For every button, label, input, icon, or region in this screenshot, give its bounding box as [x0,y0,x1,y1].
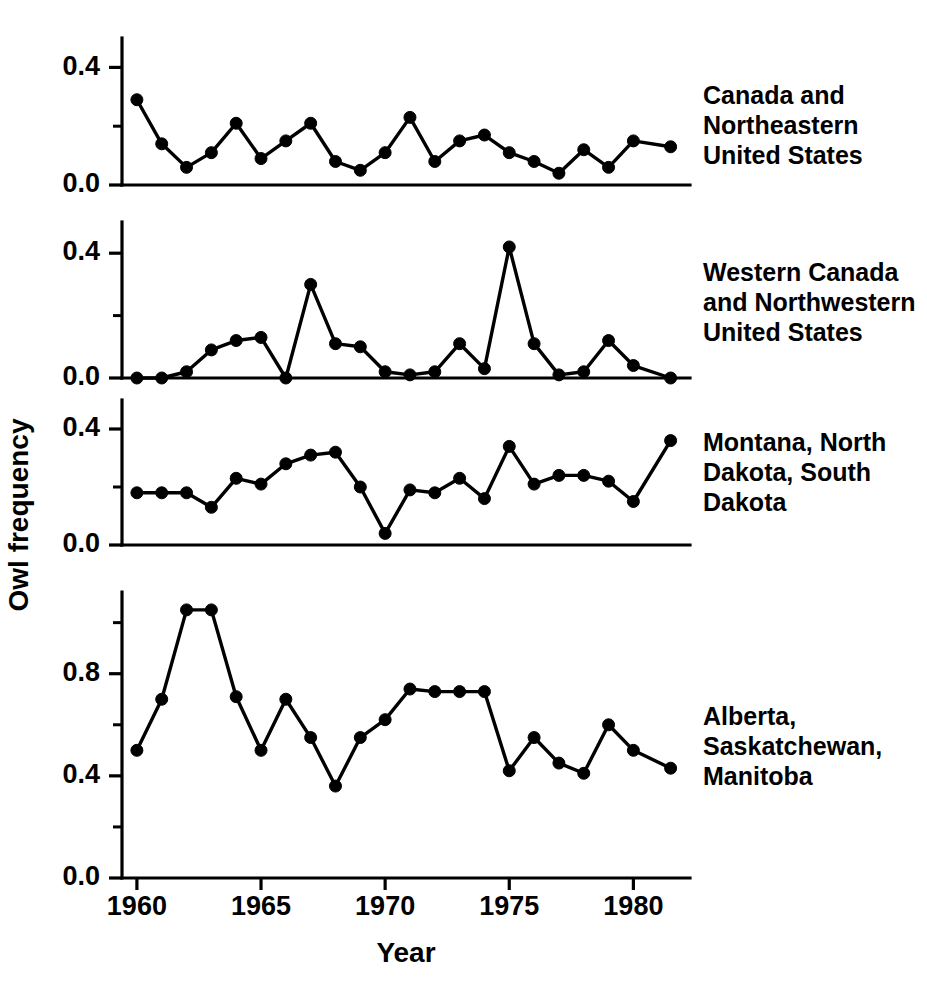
data-point-marker [354,732,366,744]
x-tick-label: 1980 [603,891,663,921]
data-point-marker [404,484,416,496]
data-point-marker [528,732,540,744]
panel-label-line: United States [703,141,863,169]
data-point-marker [478,129,490,141]
data-point-marker [181,366,193,378]
data-point-marker [230,335,242,347]
data-point-marker [354,164,366,176]
data-point-marker [578,366,590,378]
data-point-marker [429,366,441,378]
data-point-marker [205,147,217,159]
data-point-marker [230,472,242,484]
data-point-marker [156,487,168,499]
data-point-marker [305,278,317,290]
data-point-marker [478,493,490,505]
y-tick-label: 0.8 [62,657,100,687]
panel-label-line: Western Canada [703,258,900,286]
data-point-marker [627,135,639,147]
data-point-marker [503,241,515,253]
panel-label-line: Canada and [703,81,845,109]
data-point-marker [603,161,615,173]
data-point-marker [305,732,317,744]
x-axis-title: Year [376,937,435,968]
data-point-marker [280,458,292,470]
data-point-marker [329,446,341,458]
data-point-marker [454,472,466,484]
panel-label-line: Alberta, [703,702,796,730]
data-point-marker [603,335,615,347]
data-point-marker [503,147,515,159]
data-point-marker [665,141,677,153]
panel-label-1: Canada andNortheasternUnited States [703,81,863,169]
y-tick-label: 0.4 [62,51,100,81]
data-point-marker [404,369,416,381]
data-point-marker [379,714,391,726]
data-point-marker [255,478,267,490]
data-point-marker [230,691,242,703]
data-point-marker [205,344,217,356]
data-point-marker [665,435,677,447]
y-tick-label: 0.0 [62,168,100,198]
data-point-marker [379,527,391,539]
y-tick-label: 0.4 [62,759,100,789]
data-point-marker [156,693,168,705]
panel-label-line: United States [703,318,863,346]
data-point-marker [553,167,565,179]
data-point-marker [181,604,193,616]
data-point-marker [131,372,143,384]
data-point-marker [329,338,341,350]
data-point-marker [181,161,193,173]
data-point-marker [354,341,366,353]
y-tick-label: 0.4 [62,412,100,442]
panel-label-line: Dakota, South [703,458,871,486]
data-point-marker [503,440,515,452]
y-tick-label: 0.4 [62,236,100,266]
panel-label-line: Montana, North [703,428,886,456]
data-point-marker [478,686,490,698]
data-point-marker [255,153,267,165]
data-point-marker [255,744,267,756]
data-point-marker [578,144,590,156]
panel-label-line: Manitoba [703,762,814,790]
data-point-marker [156,138,168,150]
data-point-marker [429,487,441,499]
x-tick-label: 1960 [107,891,167,921]
data-point-marker [131,487,143,499]
data-point-marker [454,338,466,350]
data-point-marker [354,481,366,493]
panel-label-line: Dakota [703,488,787,516]
data-point-marker [404,683,416,695]
data-point-marker [205,604,217,616]
x-tick-label: 1970 [355,891,415,921]
data-point-marker [627,496,639,508]
y-tick-label: 0.0 [62,361,100,391]
panel-label-line: Saskatchewan, [703,732,882,760]
data-point-marker [665,372,677,384]
data-point-marker [280,693,292,705]
y-tick-label: 0.0 [62,528,100,558]
owl-frequency-figure: 0.00.4Canada andNortheasternUnited State… [0,0,927,992]
panel-label-line: and Northwestern [703,288,916,316]
data-point-marker [404,111,416,123]
data-point-marker [578,469,590,481]
y-tick-label: 0.0 [62,861,100,891]
data-point-marker [156,372,168,384]
data-point-marker [329,155,341,167]
data-point-marker [454,686,466,698]
data-point-marker [603,719,615,731]
data-point-marker [280,372,292,384]
data-point-marker [553,469,565,481]
data-point-marker [379,366,391,378]
data-point-marker [603,475,615,487]
data-point-marker [280,135,292,147]
data-point-marker [528,338,540,350]
y-axis-title: Owl frequency [3,418,34,611]
data-point-marker [553,369,565,381]
data-point-marker [627,360,639,372]
data-point-marker [454,135,466,147]
data-point-marker [503,765,515,777]
x-tick-label: 1965 [231,891,291,921]
data-point-marker [255,331,267,343]
data-point-marker [131,94,143,106]
data-point-marker [429,155,441,167]
